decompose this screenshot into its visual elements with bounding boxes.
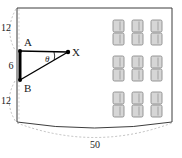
diagram-canvas: 12 6 12 50 A B X θ xyxy=(0,0,182,158)
dimension-label-6: 6 xyxy=(9,60,14,71)
dimension-label-bottom-12: 12 xyxy=(1,95,11,106)
vertex-X-dot xyxy=(66,50,70,54)
desk-unit xyxy=(151,33,162,45)
desk-unit xyxy=(132,69,143,81)
desk-unit xyxy=(151,56,162,68)
vertex-label-A: A xyxy=(24,36,32,48)
desk-unit xyxy=(113,105,124,117)
desk-unit xyxy=(113,33,124,45)
segment-AX xyxy=(20,51,68,52)
desk-unit xyxy=(113,92,124,104)
vertex-label-X: X xyxy=(72,46,80,58)
desk-unit xyxy=(151,69,162,81)
desk-unit xyxy=(151,92,162,104)
desk-unit xyxy=(132,33,143,45)
desk-unit xyxy=(132,56,143,68)
vertex-A-dot xyxy=(18,49,22,53)
desk-unit xyxy=(151,20,162,32)
desk-unit xyxy=(151,105,162,117)
desk-unit xyxy=(113,20,124,32)
dimension-label-top-12: 12 xyxy=(1,22,11,33)
desk-unit xyxy=(132,20,143,32)
desk-unit xyxy=(113,56,124,68)
desk-unit xyxy=(132,105,143,117)
desk-unit xyxy=(132,92,143,104)
diagram-svg: 12 6 12 50 A B X θ xyxy=(0,0,182,158)
angle-label-theta: θ xyxy=(45,54,50,64)
vertex-B-dot xyxy=(18,78,22,82)
vertex-label-B: B xyxy=(24,82,31,94)
dimension-label-width-50: 50 xyxy=(90,139,100,150)
desk-unit xyxy=(113,69,124,81)
